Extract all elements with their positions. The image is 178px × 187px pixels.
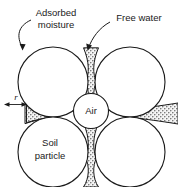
- radius-label: r: [14, 92, 18, 102]
- air-label: Air: [85, 105, 97, 116]
- soil-moisture-diagram: Adsorbed moisture Free water Air Soil pa…: [0, 0, 178, 187]
- adsorbed-moisture-leader-line: [19, 20, 31, 48]
- soil-particle-label-line2: particle: [35, 150, 66, 161]
- bottom-right-particle: [95, 117, 165, 187]
- radius-arrowhead-left: [4, 102, 10, 106]
- free-water-label: Free water: [116, 12, 161, 23]
- free-water-leader-line: [89, 22, 111, 48]
- diagram-canvas: Adsorbed moisture Free water Air Soil pa…: [0, 0, 178, 187]
- adsorbed-moisture-arrowhead: [20, 44, 26, 51]
- soil-particle-label-line1: Soil: [42, 137, 58, 148]
- adsorbed-moisture-label-line2: moisture: [38, 19, 74, 30]
- adsorbed-moisture-label-line1: Adsorbed: [36, 7, 77, 18]
